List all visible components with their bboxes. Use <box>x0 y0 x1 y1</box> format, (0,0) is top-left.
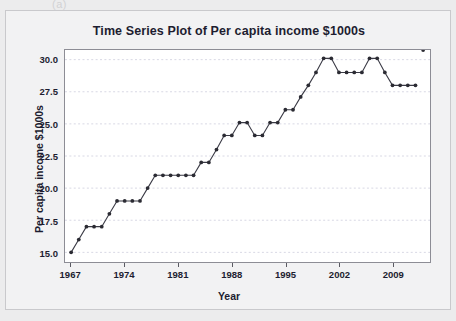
x-tick-label: 2009 <box>383 269 404 280</box>
data-point <box>169 173 173 177</box>
chart-figure: Time Series Plot of Per capita income $1… <box>5 10 451 310</box>
data-point <box>322 56 326 60</box>
data-point <box>176 173 180 177</box>
data-point <box>383 71 387 75</box>
x-tick-mark <box>124 263 125 267</box>
data-point <box>77 238 81 242</box>
data-point <box>215 148 219 152</box>
x-tick-mark <box>178 263 179 267</box>
data-point <box>161 173 165 177</box>
data-point <box>115 199 119 203</box>
x-tick-mark <box>70 263 71 267</box>
x-tick-mark <box>232 263 233 267</box>
data-point <box>230 134 234 138</box>
data-point <box>261 134 265 138</box>
data-point <box>199 161 203 165</box>
top-left-artifact-text: (a) <box>52 0 67 10</box>
data-point <box>299 95 303 99</box>
data-point <box>69 250 73 254</box>
data-point <box>238 121 242 125</box>
data-point <box>184 173 188 177</box>
data-point <box>406 83 410 87</box>
data-point <box>360 71 364 75</box>
series-plot <box>65 50 430 262</box>
data-point <box>107 212 111 216</box>
data-point <box>352 71 356 75</box>
y-tick-label: 22.5 <box>40 151 59 162</box>
data-point <box>314 71 318 75</box>
y-tick-label: 20.0 <box>40 183 59 194</box>
y-tick-label: 17.5 <box>40 215 59 226</box>
y-tick-label: 30.0 <box>40 53 59 64</box>
data-point <box>253 134 257 138</box>
data-point <box>375 56 379 60</box>
data-point <box>268 121 272 125</box>
y-tick-label: 25.0 <box>40 118 59 129</box>
x-tick-label: 2002 <box>329 269 350 280</box>
chart-title: Time Series Plot of Per capita income $1… <box>6 24 452 38</box>
data-point <box>391 83 395 87</box>
data-point <box>85 225 89 229</box>
x-tick-mark <box>393 263 394 267</box>
data-point <box>245 121 249 125</box>
x-tick-mark <box>339 263 340 267</box>
data-point <box>146 186 150 190</box>
data-point <box>276 121 280 125</box>
y-axis-tick-labels: 15.017.520.022.525.027.530.0 <box>22 49 58 263</box>
data-point <box>421 50 425 52</box>
x-tick-label: 1995 <box>275 269 296 280</box>
x-tick-label: 1967 <box>60 269 81 280</box>
data-point <box>130 199 134 203</box>
data-point <box>92 225 96 229</box>
x-tick-mark <box>286 263 287 267</box>
x-tick-label: 1988 <box>221 269 242 280</box>
data-point <box>222 134 226 138</box>
data-point <box>414 83 418 87</box>
data-point <box>398 83 402 87</box>
data-point <box>153 173 157 177</box>
x-tick-label: 1981 <box>167 269 188 280</box>
y-tick-label: 27.5 <box>40 86 59 97</box>
x-tick-label: 1974 <box>113 269 134 280</box>
plot-area <box>64 49 431 263</box>
data-point <box>368 56 372 60</box>
data-point <box>345 71 349 75</box>
data-point <box>329 56 333 60</box>
data-point <box>123 199 127 203</box>
y-tick-label: 15.0 <box>40 248 59 259</box>
data-point <box>207 161 211 165</box>
data-point <box>337 71 341 75</box>
data-point <box>192 173 196 177</box>
data-point <box>138 199 142 203</box>
data-point <box>291 108 295 112</box>
data-point <box>306 83 310 87</box>
data-point <box>283 108 287 112</box>
series-line <box>71 58 415 252</box>
data-point <box>100 225 104 229</box>
gridlines <box>65 60 430 253</box>
series-markers <box>69 50 425 254</box>
x-axis-tick-labels: 1967197419811988199520022009 <box>64 263 431 285</box>
x-axis-label: Year <box>6 290 452 302</box>
